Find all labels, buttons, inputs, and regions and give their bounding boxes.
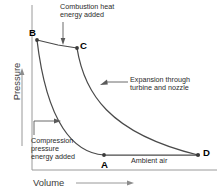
process-line-b-to-c (37, 40, 77, 48)
state-point-label-a: A (101, 160, 108, 170)
compression-leader-arrow-icon (34, 119, 61, 135)
state-point-marker-c (75, 46, 79, 50)
annotation-expansion-turbine: Expansion through turbine and nozzle (130, 76, 190, 92)
state-point-label-b: B (29, 28, 36, 38)
pv-cycle-diagram: Combustion heat energy added Expansion t… (0, 0, 219, 196)
x-axis-arrow-icon (76, 181, 134, 186)
state-point-marker-d (196, 153, 200, 157)
expansion-leader-arrow-icon (100, 79, 128, 85)
state-point-marker-a (102, 153, 106, 157)
annotation-compression-pressure: Compression pressure energy added (31, 137, 75, 162)
state-point-marker-b (35, 38, 39, 42)
state-point-label-d: D (203, 148, 210, 158)
y-axis-label: Pressure (11, 47, 22, 117)
combustion-leader-arrow-icon (61, 22, 66, 45)
annotation-ambient-air: Ambient air (131, 157, 167, 165)
x-axis-label: Volume (33, 177, 64, 188)
process-curve-c-to-d (77, 48, 198, 155)
annotation-combustion-heat: Combustion heat energy added (60, 3, 114, 19)
state-point-label-c: C (80, 41, 87, 51)
